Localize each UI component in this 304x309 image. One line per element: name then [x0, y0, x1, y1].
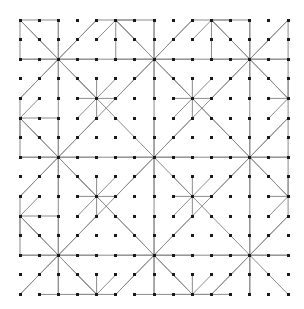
- lattice-dot: [172, 195, 175, 198]
- lattice-dot: [133, 77, 136, 80]
- lattice-dot: [267, 77, 270, 80]
- lattice-dot: [172, 19, 175, 22]
- lattice-dot: [172, 77, 175, 80]
- lattice-dot: [248, 136, 251, 139]
- lattice-dot: [19, 234, 22, 237]
- lattice-dot: [172, 97, 175, 100]
- lattice-dot: [210, 117, 213, 120]
- lattice-dot: [38, 117, 41, 120]
- lattice-dot: [248, 19, 251, 22]
- lattice-dot: [38, 195, 41, 198]
- lattice-dot: [133, 215, 136, 218]
- lattice-dot: [267, 19, 270, 22]
- lattice-dot: [95, 254, 98, 257]
- lattice-dot: [57, 215, 60, 218]
- lattice-dot: [153, 38, 156, 41]
- lattice-dot: [210, 215, 213, 218]
- lattice-dot: [19, 136, 22, 139]
- lattice-dot: [38, 58, 41, 61]
- lattice-dot: [191, 136, 194, 139]
- lattice-dot: [76, 254, 79, 257]
- lattice-dot: [248, 293, 251, 296]
- lattice-dot: [248, 215, 251, 218]
- lattice-dot: [287, 97, 290, 100]
- lattice-dot: [267, 234, 270, 237]
- lattice-dot: [248, 234, 251, 237]
- lattice-dot: [133, 195, 136, 198]
- lattice-dot: [248, 156, 251, 159]
- lattice-dot: [76, 156, 79, 159]
- lattice-dot: [133, 156, 136, 159]
- lattice-dot: [57, 77, 60, 80]
- lattice-dot: [19, 117, 22, 120]
- lattice-dot: [95, 293, 98, 296]
- lattice-dot: [191, 293, 194, 296]
- lattice-dot: [133, 97, 136, 100]
- lattice-dot-layer: [19, 19, 290, 296]
- lattice-dot: [229, 273, 232, 276]
- lattice-dot: [76, 273, 79, 276]
- lattice-dot: [248, 97, 251, 100]
- lattice-dot: [114, 293, 117, 296]
- lattice-dot: [267, 58, 270, 61]
- lattice-dot: [287, 156, 290, 159]
- lattice-dot: [114, 58, 117, 61]
- lattice-dot: [229, 156, 232, 159]
- lattice-dot: [172, 234, 175, 237]
- lattice-dot: [38, 234, 41, 237]
- lattice-dot: [191, 254, 194, 257]
- lattice-dot: [191, 117, 194, 120]
- lattice-dot: [38, 254, 41, 257]
- lattice-dot: [19, 175, 22, 178]
- lattice-dot: [153, 77, 156, 80]
- lattice-dot: [210, 136, 213, 139]
- lattice-dot: [210, 19, 213, 22]
- lattice-dot: [191, 38, 194, 41]
- lattice-dot: [76, 175, 79, 178]
- lattice-dot: [229, 117, 232, 120]
- lattice-dot: [248, 195, 251, 198]
- lattice-dot: [229, 77, 232, 80]
- lattice-dot: [229, 38, 232, 41]
- lattice-dot: [267, 97, 270, 100]
- lattice-dot: [114, 234, 117, 237]
- lattice-dot: [76, 234, 79, 237]
- lattice-dot: [95, 156, 98, 159]
- lattice-dot: [76, 38, 79, 41]
- lattice-dot: [19, 97, 22, 100]
- lattice-dot: [267, 195, 270, 198]
- lattice-dot: [57, 273, 60, 276]
- lattice-dot: [19, 38, 22, 41]
- lattice-dot: [95, 38, 98, 41]
- lattice-dot: [133, 38, 136, 41]
- lattice-dot: [153, 254, 156, 257]
- lattice-dot: [133, 234, 136, 237]
- lattice-dot: [19, 156, 22, 159]
- lattice-dot: [267, 215, 270, 218]
- lattice-dot: [210, 273, 213, 276]
- lattice-dot: [76, 117, 79, 120]
- lattice-dot: [19, 273, 22, 276]
- lattice-dot: [114, 195, 117, 198]
- lattice-dot: [19, 293, 22, 296]
- lattice-dot: [229, 19, 232, 22]
- lattice-dot: [95, 195, 98, 198]
- lattice-dot: [57, 234, 60, 237]
- lattice-dot: [114, 117, 117, 120]
- lattice-dot: [248, 254, 251, 257]
- lattice-dot: [95, 215, 98, 218]
- lattice-dot: [133, 273, 136, 276]
- lattice-dot: [76, 136, 79, 139]
- lattice-dot: [210, 293, 213, 296]
- lattice-dot: [95, 136, 98, 139]
- lattice-dot: [191, 215, 194, 218]
- lattice-dot: [114, 273, 117, 276]
- lattice-dot: [229, 254, 232, 257]
- lattice-dot: [172, 175, 175, 178]
- lattice-dot: [38, 38, 41, 41]
- lattice-dot: [248, 273, 251, 276]
- lattice-dot: [57, 58, 60, 61]
- lattice-dot: [191, 19, 194, 22]
- lattice-dot: [38, 77, 41, 80]
- lattice-dot: [172, 38, 175, 41]
